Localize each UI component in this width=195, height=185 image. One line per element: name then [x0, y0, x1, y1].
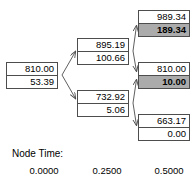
node-time-label: Node Time:	[12, 148, 63, 159]
node-down-down-top-value: 663.17	[139, 115, 189, 128]
node-root[interactable]: 810.00 53.39	[6, 62, 58, 89]
node-down[interactable]: 732.92 5.06	[77, 90, 129, 117]
node-up-down[interactable]: 810.00 10.00	[138, 62, 190, 89]
edge-up-upup	[133, 26, 137, 52]
node-down-top-value: 732.92	[78, 91, 128, 104]
node-time-axis: Node Time: 0.0000 0.2500 0.5000	[0, 148, 195, 185]
node-time-tick-2: 0.5000	[147, 165, 191, 176]
node-time-tick-0: 0.0000	[22, 165, 66, 176]
edge-root-up	[62, 52, 76, 76]
node-up-up-top-value: 989.34	[139, 11, 189, 24]
node-root-bottom-value: 53.39	[7, 76, 57, 88]
edge-down-downdown	[133, 103, 137, 126]
node-up-down-top-value: 810.00	[139, 63, 189, 76]
lattice-tree-diagram: 810.00 53.39 895.19 100.66 732.92 5.06 9…	[0, 0, 195, 185]
node-time-tick-1: 0.2500	[85, 165, 129, 176]
node-up-up[interactable]: 989.34 189.34	[138, 10, 190, 37]
node-down-bottom-value: 5.06	[78, 104, 128, 116]
edge-down-updown	[133, 80, 137, 104]
node-down-down-bottom-value: 0.00	[139, 128, 189, 140]
edge-up-updown	[133, 51, 137, 72]
node-up-top-value: 895.19	[78, 39, 128, 52]
node-down-down[interactable]: 663.17 0.00	[138, 114, 190, 141]
node-up[interactable]: 895.19 100.66	[77, 38, 129, 65]
node-up-bottom-value: 100.66	[78, 52, 128, 64]
node-root-top-value: 810.00	[7, 63, 57, 76]
node-up-down-bottom-value: 10.00	[139, 76, 189, 88]
node-up-up-bottom-value: 189.34	[139, 24, 189, 36]
edge-root-down	[62, 75, 76, 99]
